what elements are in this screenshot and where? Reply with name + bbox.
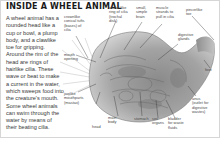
label-anus: anus (outlet for digestive wastes)	[192, 97, 208, 115]
label-head: head	[92, 125, 101, 129]
label-stomach: stomach	[134, 117, 149, 121]
label-digestive-glands: digestive glands	[178, 33, 193, 42]
label-wheel-ring: wheel-like ring of cilia (trochal disk)	[109, 6, 128, 24]
label-mouth-opening: mouth opening	[64, 53, 78, 62]
label-bladder: bladder for waste fluids	[168, 117, 184, 130]
label-crownlike-tufts: crownlike conical tufts (bases) of cilia	[64, 15, 85, 33]
label-sex-organs: sex organs	[152, 117, 164, 126]
label-pincerlike-toe: pincerlike toe	[186, 8, 202, 17]
label-jawlike-mouthparts: jawlike mouthparts (mastax)	[64, 92, 83, 105]
label-muscle: muscle strands to pull in cilia	[156, 6, 174, 19]
label-main-body: main body	[108, 116, 116, 125]
label-brain: small, simple brain	[136, 6, 147, 19]
label-foot: foot	[205, 68, 212, 72]
